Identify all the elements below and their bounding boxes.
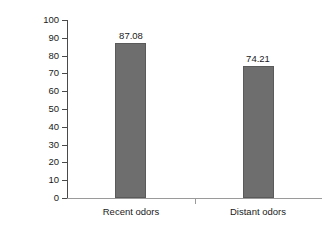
y-tick-mark — [62, 38, 67, 39]
y-tick-mark — [62, 145, 67, 146]
bar-chart: Percentage of matches correct 0102030405… — [0, 0, 331, 236]
y-tick-label: 10 — [28, 175, 59, 185]
y-tick-label: 60 — [28, 86, 59, 96]
y-tick-mark — [62, 127, 67, 128]
x-tick-mark — [195, 199, 196, 204]
y-tick-mark — [62, 20, 67, 21]
y-tick-label: 50 — [28, 104, 59, 114]
y-tick-mark — [62, 109, 67, 110]
y-tick-label: 70 — [28, 68, 59, 78]
y-tick-mark — [62, 73, 67, 74]
y-tick-label: 40 — [28, 122, 59, 132]
y-tick-label: 20 — [28, 157, 59, 167]
bar — [243, 66, 274, 198]
y-tick-label: 80 — [28, 51, 59, 61]
y-tick-label: 0 — [28, 193, 59, 203]
bar-value-label: 87.08 — [101, 30, 161, 41]
y-tick-label: 30 — [28, 140, 59, 150]
y-tick-mark — [62, 91, 67, 92]
y-axis-line — [67, 20, 68, 199]
y-tick-mark — [62, 180, 67, 181]
y-tick-label: 100 — [28, 15, 59, 25]
y-tick-mark — [62, 198, 67, 199]
bar-value-label: 74.21 — [228, 53, 288, 64]
bar — [115, 43, 146, 198]
y-tick-mark — [62, 162, 67, 163]
x-category-label: Distant odors — [193, 206, 323, 218]
y-tick-mark — [62, 56, 67, 57]
y-tick-label: 90 — [28, 33, 59, 43]
x-category-label: Recent odors — [66, 206, 196, 218]
